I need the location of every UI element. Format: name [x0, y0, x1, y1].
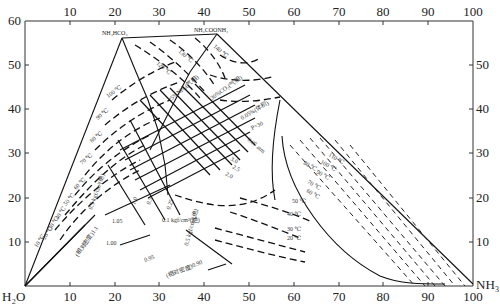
- isotherm-labels-right: 110 ℃ 100 ℃ 90 ℃ 80 ℃ 70 ℃ 60 ℃ 50 ℃ 40 …: [287, 152, 345, 241]
- density-1-05: 1.05: [112, 218, 123, 224]
- y-tick-10: 10: [8, 234, 21, 249]
- label-120c: 120 ℃: [155, 60, 172, 76]
- x-top-tick-100: 100: [463, 4, 483, 19]
- plot-frame: [25, 21, 473, 286]
- x-top-tick-20: 20: [109, 4, 122, 19]
- nh2coonh4-label: NH₂COONH₄: [194, 27, 228, 33]
- label-r-20c: 20 ℃: [287, 235, 302, 241]
- label-r-40c: 40 ℃: [287, 211, 302, 217]
- y-right-tick-10: 10: [476, 234, 489, 249]
- y-ticks: [25, 65, 473, 242]
- x-tick-50: 50: [243, 289, 256, 304]
- density-labels: (相对密度)1.1 (相对密度)0.90 1.05 1.00 0.95: [73, 218, 203, 280]
- label-r-90c: 90 ℃: [316, 169, 332, 181]
- x-top-tick-80: 80: [377, 4, 390, 19]
- diagram-canvas: 10 20 30 40 50 60 70 80 90 100 10 20 30 …: [0, 0, 500, 308]
- isotherm-curves: [55, 38, 465, 286]
- y-tick-50: 50: [8, 57, 21, 72]
- label-80c: 80 ℃: [89, 130, 104, 144]
- pressure-1-0: 1.0: [130, 196, 138, 205]
- pressure-0-1: 0.1 kgf/cm²(绝): [162, 216, 200, 224]
- y-tick-60: 60: [8, 13, 21, 28]
- region-30-co2-gas: 30%CO₂(气相): [209, 74, 244, 102]
- pressure-2-5: 2.5: [232, 164, 241, 173]
- density-1-1: (相对密度)1.1: [73, 224, 100, 258]
- x-top-tick-60: 60: [288, 4, 301, 19]
- x-top-tick-40: 40: [198, 4, 211, 19]
- x-ticks: [70, 21, 428, 286]
- x-tick-labels-top: 10 20 30 40 50 60 70 80 90 100: [64, 4, 483, 19]
- y-tick-labels-right: 10 20 30 40 50: [476, 57, 489, 249]
- label-70c: 70 ℃: [79, 152, 94, 166]
- x-top-tick-50: 50: [243, 4, 256, 19]
- phase-diagram: 10 20 30 40 50 60 70 80 90 100 10 20 30 …: [0, 0, 500, 308]
- density-0-90: (相对密度)0.90: [165, 258, 204, 280]
- x-tick-30: 30: [153, 289, 166, 304]
- pressure-p30: P=30: [250, 120, 264, 131]
- x-top-tick-90: 90: [422, 4, 435, 19]
- label-90c: 90 ℃: [95, 107, 110, 121]
- label-140c: 140 ℃: [212, 43, 229, 59]
- x-tick-60: 60: [288, 289, 301, 304]
- phase-boundaries: [25, 34, 473, 286]
- h2o-label: H₂O: [2, 289, 25, 304]
- y-tick-30: 30: [8, 145, 21, 160]
- x-tick-40: 40: [198, 289, 211, 304]
- x-tick-80: 80: [377, 289, 390, 304]
- x-tick-labels-bottom: 10 20 30 40 50 60 70 80 90 100: [64, 289, 483, 304]
- y-right-tick-40: 40: [476, 101, 489, 116]
- pressure-0-05-atm: 0.05 atm: [246, 136, 266, 154]
- pressure-0-5-abs-2: 0.5 kgf/cm²(绝): [182, 208, 200, 247]
- x-top-tick-70: 70: [333, 4, 346, 19]
- label-130c: 130 ℃: [177, 48, 194, 64]
- y-right-tick-20: 20: [476, 190, 489, 205]
- y-right-tick-30: 30: [476, 145, 489, 160]
- y-tick-labels-left: 10 20 30 40 50 60: [8, 13, 21, 249]
- y-tick-40: 40: [8, 101, 21, 116]
- nh4hco3-label: NH₄HCO₃: [102, 30, 128, 36]
- x-tick-10: 10: [64, 289, 77, 304]
- x-top-tick-10: 10: [64, 4, 77, 19]
- y-right-tick-50: 50: [476, 57, 489, 72]
- pressure-2-0: 2.0: [225, 171, 234, 180]
- label-r-80c: 80 ℃: [303, 160, 319, 172]
- x-tick-20: 20: [109, 289, 122, 304]
- density-1-00: 1.00: [106, 240, 117, 246]
- density-0-95: 0.95: [143, 254, 155, 263]
- label-r-50c: 50 ℃: [292, 198, 307, 204]
- x-tick-70: 70: [333, 289, 346, 304]
- x-tick-90: 90: [422, 289, 435, 304]
- x-top-tick-30: 30: [153, 4, 166, 19]
- nh3-label: NH₃: [476, 277, 499, 292]
- pressure-0-25: 0.25: [165, 198, 174, 210]
- label-100c: 100 ℃: [105, 84, 123, 99]
- y-tick-20: 20: [8, 190, 21, 205]
- label-r-30c: 30 ℃: [287, 226, 302, 232]
